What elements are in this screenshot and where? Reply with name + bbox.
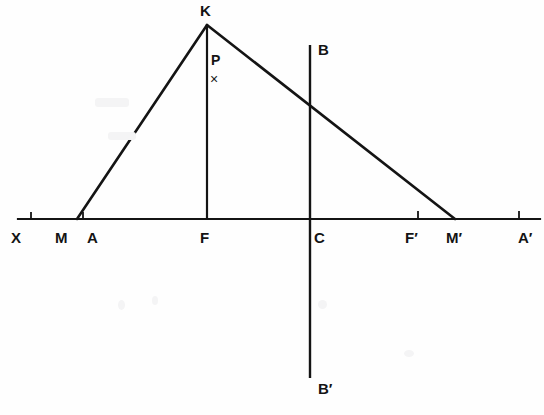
triangle-left-leg [77,25,207,219]
label-m-prime: M′ [446,229,462,246]
point-p-cross-mark: × [210,71,218,87]
label-k: K [200,2,211,19]
label-b: B [318,41,329,58]
label-m: M [55,229,68,246]
label-a-prime: A′ [518,229,533,246]
label-p: P [211,52,220,68]
label-f-prime: F′ [405,229,418,246]
label-x: X [11,229,21,246]
label-c: C [314,229,325,246]
label-a: A [87,229,98,246]
label-b-prime: B′ [318,380,333,397]
diagram-canvas: K B B′ P × X M A F C F′ M′ A′ [0,0,544,415]
label-f: F [200,229,209,246]
triangle-right-leg [207,25,455,219]
geometry-figure: K B B′ P × X M A F C F′ M′ A′ [0,0,544,415]
